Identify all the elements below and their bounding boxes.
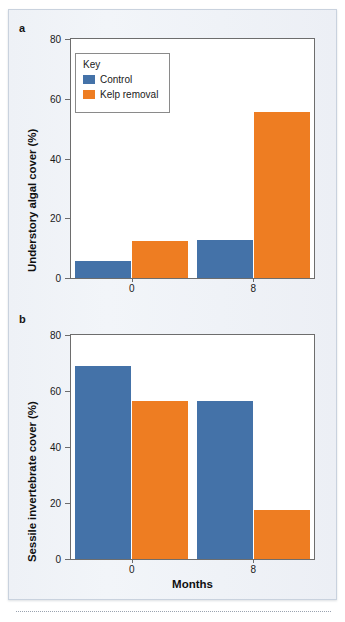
bar-a-control-month-0 [75,261,131,278]
y-tick-label: 80 [39,34,61,45]
x-tick-label-0: 0 [129,564,135,575]
legend-label-control: Control [100,74,132,85]
legend-title: Key [83,59,163,70]
chart-panel-a: a Understory algal cover (%) 020406080 0… [9,10,336,306]
y-tick-label: 60 [39,93,61,104]
bar-a-control-month-8 [197,240,253,278]
legend-label-kelp-removal: Kelp removal [100,89,158,100]
y-tick-label: 0 [39,273,61,284]
x-tick-label-8: 8 [250,564,256,575]
x-tick-mark [132,278,133,282]
chart-panel-b: b Sessile invertebrate cover (%) 0204060… [9,306,336,601]
y-axis-title-a: Understory algal cover (%) [26,129,38,272]
y-tick-label: 20 [39,213,61,224]
bottom-divider [16,611,331,613]
legend-swatch-kelp-removal-icon [83,90,95,99]
bar-b-control-month-0 [75,366,131,559]
y-tick-label: 0 [39,554,61,565]
panel-letter-b: b [19,313,26,325]
bar-b-kelp-removal-month-0 [132,401,188,559]
figure-panel: a Understory algal cover (%) 020406080 0… [8,9,337,600]
legend-item-kelp-removal: Kelp removal [83,88,163,101]
x-tick-mark [253,559,254,563]
y-axis-title-b: Sessile invertebrate cover (%) [26,401,38,562]
y-tick-label: 20 [39,498,61,509]
x-tick-mark [132,559,133,563]
bar-a-kelp-removal-month-8 [254,112,310,278]
x-tick-label-8: 8 [250,283,256,294]
x-tick-mark [253,278,254,282]
y-tick-label: 80 [39,330,61,341]
x-axis-title: Months [70,578,315,590]
bars-layer-b [71,335,314,559]
legend: Key Control Kelp removal [75,53,170,113]
legend-item-control: Control [83,73,163,86]
y-tick-label: 40 [39,442,61,453]
y-tick-label: 40 [39,153,61,164]
bar-b-control-month-8 [197,401,253,559]
x-tick-label-0: 0 [129,283,135,294]
legend-swatch-control-icon [83,75,95,84]
y-tick-label: 60 [39,386,61,397]
bar-b-kelp-removal-month-8 [254,510,310,559]
plot-area-b [70,334,315,560]
panel-letter-a: a [19,22,25,34]
bar-a-kelp-removal-month-0 [132,241,188,278]
